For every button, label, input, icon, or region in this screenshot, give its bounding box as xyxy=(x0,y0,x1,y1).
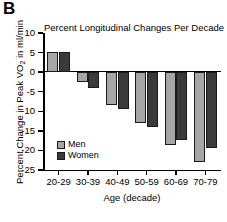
y-axis-tick xyxy=(38,91,43,93)
y-axis-title-tail: in ml/min xyxy=(14,20,25,61)
y-axis-tick xyxy=(38,130,43,132)
bar-40-49-women xyxy=(118,72,129,108)
legend-item-men: Men xyxy=(57,139,99,150)
x-axis-tick-label: 40-49 xyxy=(101,177,133,187)
x-axis-tick-label: 60-69 xyxy=(160,177,192,187)
bar-20-29-men xyxy=(47,52,58,72)
x-axis-tick xyxy=(87,170,89,175)
y-axis-tick xyxy=(38,32,43,34)
y-axis-tick-label: -20 xyxy=(21,145,35,155)
chart-title: Percent Longitudinal Changes Per Decade xyxy=(44,22,224,33)
y-axis-tick xyxy=(38,52,43,54)
legend-label-women: Women xyxy=(68,150,99,161)
x-axis-title: Age (decade) xyxy=(44,192,220,203)
bar-30-39-women xyxy=(88,72,99,88)
y-axis-tick xyxy=(38,111,43,113)
legend-swatch-men-icon xyxy=(57,141,65,149)
y-axis-tick-label: -15 xyxy=(21,126,35,136)
legend-label-men: Men xyxy=(68,139,86,150)
y-axis-tick xyxy=(38,150,43,152)
y-axis-tick-label: -25 xyxy=(21,165,35,175)
legend-item-women: Women xyxy=(57,150,99,161)
x-axis-tick xyxy=(205,170,207,175)
x-axis-tick xyxy=(117,170,119,175)
x-axis-tick xyxy=(175,170,177,175)
x-axis-tick-label: 20-29 xyxy=(43,177,75,187)
legend-swatch-women-icon xyxy=(57,152,65,160)
y-axis-tick-label: 10 xyxy=(24,28,35,38)
bar-70-79-men xyxy=(194,72,205,162)
y-axis-tick-label: -5 xyxy=(27,87,35,97)
y-axis-tick-label: 0 xyxy=(30,67,35,77)
x-axis-tick-label: 30-39 xyxy=(72,177,104,187)
bar-60-69-women xyxy=(176,72,187,140)
figure-panel-b: B Percent Longitudinal Changes Per Decad… xyxy=(0,0,227,222)
y-axis-title-subscript: 2 xyxy=(19,61,26,65)
bar-70-79-women xyxy=(206,72,217,148)
bar-30-39-men xyxy=(77,72,88,82)
bar-50-59-women xyxy=(147,72,158,127)
y-axis-tick-label: -10 xyxy=(21,106,35,116)
bar-40-49-men xyxy=(106,72,117,105)
bar-60-69-men xyxy=(165,72,176,144)
x-axis-tick xyxy=(146,170,148,175)
legend: Men Women xyxy=(57,139,99,161)
x-axis-tick xyxy=(58,170,60,175)
bar-50-59-men xyxy=(135,72,146,123)
y-axis-tick-label: 5 xyxy=(30,48,35,58)
x-axis-tick-label: 70-79 xyxy=(189,177,221,187)
y-axis-tick xyxy=(38,169,43,171)
x-axis-tick-label: 50-59 xyxy=(131,177,163,187)
bar-20-29-women xyxy=(59,52,70,72)
